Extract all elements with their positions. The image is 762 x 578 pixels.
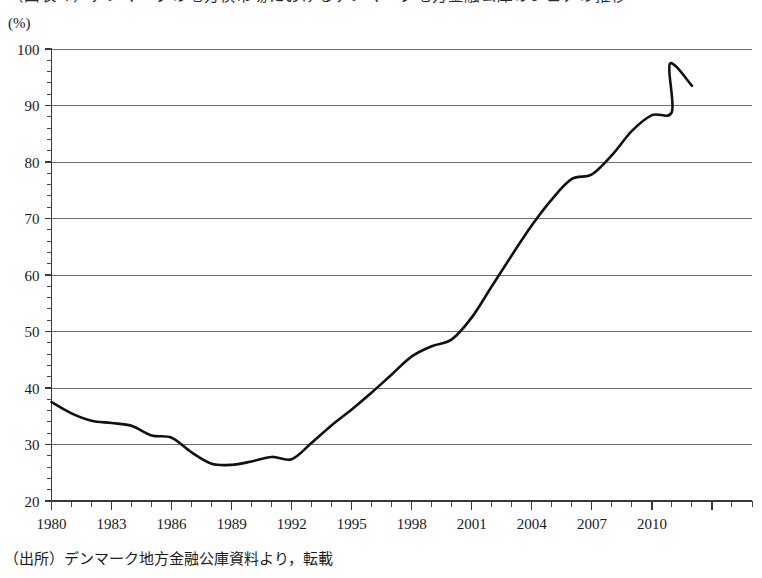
- y-axis-label: 90: [25, 98, 40, 114]
- y-axis-label: 100: [17, 42, 40, 58]
- x-axis-ticks-group: [52, 501, 753, 510]
- x-axis-label: 2001: [457, 516, 487, 532]
- x-axis-label: 1989: [217, 516, 247, 532]
- source-note: （出所）デンマーク地方金融公庫資料より，転載: [4, 549, 333, 569]
- x-axis-label: 2004: [517, 516, 548, 532]
- y-axis-label: 60: [25, 268, 40, 284]
- x-axis-label: 1980: [37, 516, 67, 532]
- x-axis-label: 1995: [337, 516, 367, 532]
- x-axis-labels-group: 1980198319861989199219951998200120042007…: [37, 516, 667, 532]
- x-axis-label: 1992: [277, 516, 307, 532]
- data-series-line: [52, 63, 692, 465]
- y-axis-label: 80: [25, 155, 40, 171]
- y-axis-label: 40: [25, 381, 40, 397]
- chart-page: （図表４）デンマークの地方債市場におけるデンマーク地方金融公庫のシェアの推移 (…: [0, 0, 762, 578]
- x-axis-label: 1998: [397, 516, 427, 532]
- line-chart-svg: 2030405060708090100 19801983198619891992…: [0, 0, 762, 545]
- x-axis-label: 1986: [157, 516, 188, 532]
- x-axis-label: 2007: [577, 516, 608, 532]
- y-axis-labels-group: 2030405060708090100: [17, 42, 40, 510]
- gridlines-group: [52, 49, 753, 445]
- y-axis-label: 20: [25, 494, 40, 510]
- y-axis-label: 30: [25, 437, 40, 453]
- x-axis-label: 1983: [97, 516, 127, 532]
- y-axis-label: 50: [25, 324, 40, 340]
- y-axis-ticks-group: [45, 49, 52, 501]
- y-axis-label: 70: [25, 211, 40, 227]
- chart-plot-area: 2030405060708090100 19801983198619891992…: [0, 0, 762, 545]
- x-axis-label: 2010: [637, 516, 667, 532]
